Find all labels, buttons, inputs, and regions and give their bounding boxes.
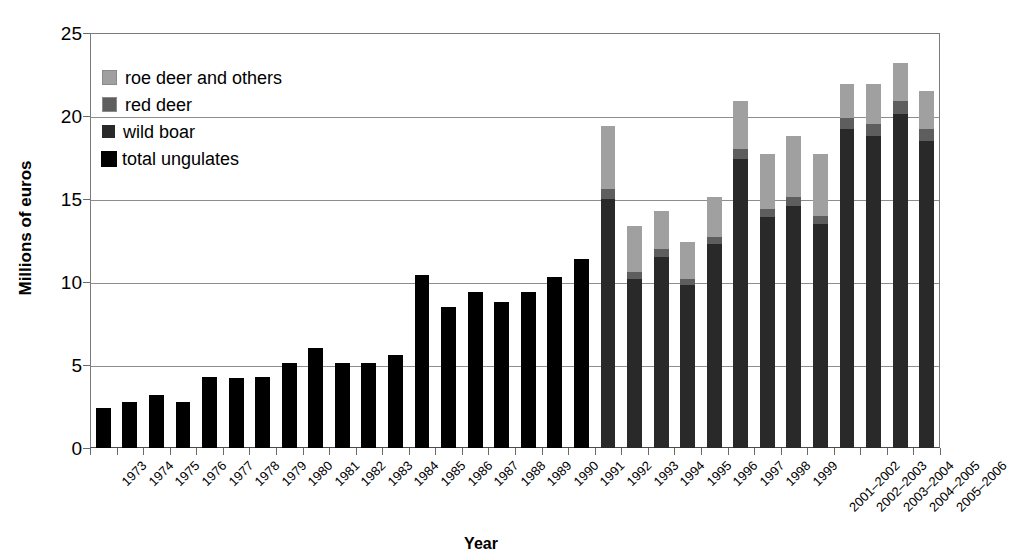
x-tick-mark — [940, 448, 941, 455]
x-tick-label: 1984 — [411, 458, 442, 489]
bar-group[interactable] — [255, 377, 270, 448]
bar-segment-red-deer — [893, 101, 908, 114]
x-tick-mark — [754, 448, 755, 455]
bar-group[interactable] — [361, 363, 376, 448]
bar-group[interactable] — [627, 226, 642, 448]
bar-group[interactable] — [282, 363, 297, 448]
y-tick-label: 5 — [22, 356, 82, 375]
bar-group[interactable] — [494, 302, 509, 448]
bar-segment-red-deer — [601, 189, 616, 199]
bar-segment-wild-boar — [919, 141, 934, 448]
bar-group[interactable] — [680, 242, 695, 448]
bar-group[interactable] — [760, 154, 775, 448]
x-tick-label: 1979 — [278, 458, 309, 489]
bar-segment-total-ungulates — [176, 402, 191, 448]
bar-segment-total-ungulates — [96, 408, 111, 448]
y-tick-label: 20 — [22, 107, 82, 126]
bar-group[interactable] — [335, 363, 350, 448]
legend-swatch-red-deer-icon — [102, 97, 117, 112]
x-tick-label: 1989 — [544, 458, 575, 489]
legend-swatch-total-ungulates-icon — [101, 151, 117, 167]
bar-segment-roe-deer — [627, 226, 642, 272]
bar-segment-total-ungulates — [547, 277, 562, 448]
x-tick-label: 1990 — [570, 458, 601, 489]
bar-group[interactable] — [654, 211, 669, 448]
x-tick-label: 1981 — [331, 458, 362, 489]
bar-group[interactable] — [176, 402, 191, 448]
x-tick-mark — [356, 448, 357, 455]
bar-segment-wild-boar — [866, 136, 881, 448]
bar-segment-red-deer — [813, 216, 828, 224]
bar-group[interactable] — [547, 277, 562, 448]
bar-group[interactable] — [441, 307, 456, 448]
bar-group[interactable] — [893, 63, 908, 448]
bar-group[interactable] — [468, 292, 483, 448]
y-axis-title: Millions of euros — [16, 118, 36, 338]
bar-segment-wild-boar — [654, 257, 669, 448]
bar-group[interactable] — [96, 408, 111, 448]
bar-group[interactable] — [786, 136, 801, 448]
x-tick-mark — [834, 448, 835, 455]
legend-swatch-roe-deer-icon — [102, 70, 117, 85]
bar-group[interactable] — [866, 84, 881, 448]
x-tick-label: 1977 — [225, 458, 256, 489]
x-axis-title: Year — [0, 535, 962, 553]
bar-group[interactable] — [574, 259, 589, 448]
bar-group[interactable] — [813, 154, 828, 448]
legend-label-red-deer: red deer — [125, 96, 192, 114]
bar-group[interactable] — [521, 292, 536, 448]
bar-segment-roe-deer — [840, 84, 855, 117]
bar-segment-red-deer — [627, 272, 642, 279]
x-tick-mark — [329, 448, 330, 455]
bar-group[interactable] — [415, 275, 430, 448]
x-tick-mark — [568, 448, 569, 455]
bar-group[interactable] — [707, 197, 722, 448]
bar-segment-wild-boar — [786, 206, 801, 448]
bar-group[interactable] — [388, 355, 403, 448]
x-tick-label: 1997 — [756, 458, 787, 489]
bar-segment-total-ungulates — [122, 402, 137, 448]
bar-segment-total-ungulates — [149, 395, 164, 448]
x-tick-label: 1973 — [119, 458, 150, 489]
bar-segment-total-ungulates — [308, 348, 323, 448]
bar-group[interactable] — [733, 101, 748, 448]
x-tick-mark — [382, 448, 383, 455]
bar-segment-roe-deer — [601, 126, 616, 189]
y-tick-mark — [83, 116, 90, 117]
x-tick-label: 1987 — [491, 458, 522, 489]
bar-segment-roe-deer — [733, 101, 748, 149]
x-tick-mark — [515, 448, 516, 455]
bar-group[interactable] — [202, 377, 217, 448]
x-tick-mark — [621, 448, 622, 455]
legend-item-red-deer: red deer — [102, 91, 282, 118]
bar-group[interactable] — [229, 378, 244, 448]
bar-segment-total-ungulates — [468, 292, 483, 448]
bar-segment-total-ungulates — [574, 259, 589, 448]
bar-group[interactable] — [149, 395, 164, 448]
x-tick-mark — [196, 448, 197, 455]
bar-segment-roe-deer — [866, 84, 881, 124]
bar-segment-red-deer — [840, 118, 855, 130]
x-tick-label: 1974 — [145, 458, 176, 489]
bar-segment-roe-deer — [813, 154, 828, 215]
legend: roe deer and others red deer wild boar t… — [102, 64, 282, 172]
legend-label-total-ungulates: total ungulates — [122, 150, 239, 168]
y-tick-label: 10 — [22, 273, 82, 292]
bar-segment-total-ungulates — [229, 378, 244, 448]
x-tick-mark — [674, 448, 675, 455]
bar-group[interactable] — [122, 402, 137, 448]
legend-item-roe-deer: roe deer and others — [102, 64, 282, 91]
bar-group[interactable] — [308, 348, 323, 448]
bar-segment-red-deer — [919, 129, 934, 141]
bar-group[interactable] — [840, 84, 855, 448]
x-tick-label: 1996 — [730, 458, 761, 489]
y-tick-label: 15 — [22, 190, 82, 209]
bar-segment-wild-boar — [680, 285, 695, 448]
x-tick-label: 1975 — [172, 458, 203, 489]
bar-segment-total-ungulates — [494, 302, 509, 448]
x-tick-mark — [409, 448, 410, 455]
bar-group[interactable] — [919, 91, 934, 448]
bar-group[interactable] — [601, 126, 616, 448]
x-tick-mark — [90, 448, 91, 455]
